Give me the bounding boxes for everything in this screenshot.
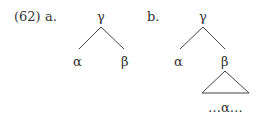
tree-a-left: α (73, 55, 82, 69)
tree-a-root: γ (97, 10, 105, 24)
example-number: (62) (14, 10, 41, 24)
tree-b-right: β (221, 55, 229, 69)
tree-b-root: γ (199, 10, 207, 24)
subexample-a-label: a. (45, 10, 57, 24)
subexample-b-label: b. (147, 10, 159, 24)
tree-a-right: β (121, 55, 129, 69)
tree-b-left: α (174, 55, 183, 69)
tree-b-subtree-content: …α… (208, 101, 243, 115)
